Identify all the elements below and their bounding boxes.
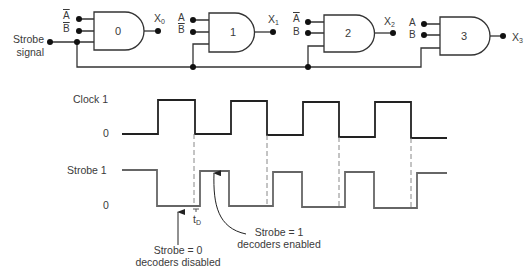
gate-3-number: 3 bbox=[461, 31, 467, 42]
gate-3-input-b: B bbox=[409, 30, 416, 40]
gate-0-output-label: X0 bbox=[154, 13, 165, 25]
bus-to-gate-2 bbox=[308, 46, 324, 67]
gate-3-input-a: A bbox=[409, 18, 416, 28]
gate-2-input-b: B bbox=[293, 27, 300, 37]
gate-2-number: 2 bbox=[345, 28, 351, 39]
clock-low-label: 0 bbox=[103, 128, 109, 139]
enabled-arrow bbox=[214, 173, 246, 234]
clock-label: Clock 1 bbox=[73, 94, 108, 105]
delay-tick bbox=[193, 209, 199, 212]
gate-0-input-a-bar: A bbox=[63, 11, 70, 21]
gate-1-number: 1 bbox=[230, 27, 236, 38]
strobe-signal-label: Strobe signal bbox=[2, 33, 44, 59]
gate-2-output-label: X2 bbox=[384, 16, 395, 28]
delay-label: tD bbox=[193, 214, 201, 226]
strobe-bus bbox=[77, 42, 440, 67]
gate-0-number: 0 bbox=[115, 26, 121, 37]
strobe-low-label: 0 bbox=[103, 200, 109, 211]
clock-waveform bbox=[122, 100, 447, 138]
gate-3-output-label: X3 bbox=[512, 32, 523, 44]
bus-to-gate-1 bbox=[193, 44, 209, 67]
strobe-label: Strobe 1 bbox=[67, 165, 107, 176]
annotation-decoders-enabled: Strobe = 1 decoders enabled bbox=[229, 226, 329, 250]
gate-1-output-label: X1 bbox=[268, 14, 279, 26]
gate-2-input-a-bar: A bbox=[293, 14, 300, 24]
gate-1-input-b-bar: B bbox=[178, 25, 185, 35]
gate-0-input-b-bar: B bbox=[63, 24, 70, 34]
strobe-waveform bbox=[122, 170, 447, 208]
gate-1-input-a: A bbox=[178, 13, 185, 23]
annotation-decoders-disabled: Strobe = 0 decoders disabled bbox=[128, 244, 228, 268]
